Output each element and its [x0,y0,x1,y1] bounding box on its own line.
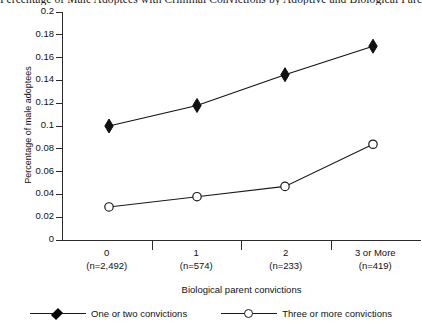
legend-item-three-or-more: Three or more convictions [221,308,392,320]
x-axis-category: 0(n=2,492) [86,246,127,272]
x-axis-category-label: 0 [86,246,127,259]
x-axis-title: Biological parent convictions [62,284,421,295]
y-axis-tick-label: 0.14 [36,73,55,84]
x-axis-category-count: (n=419) [355,259,396,272]
legend-label: Three or more convictions [282,308,392,319]
data-point-diamond [369,39,377,53]
series-line [109,46,373,126]
x-axis-category-count: (n=574) [180,259,213,272]
x-axis-category: 1(n=574) [180,246,213,272]
y-axis-tick-label: 0.2 [41,5,54,16]
legend-item-one-or-two: One or two convictions [30,308,187,320]
x-axis-separator [152,241,153,250]
data-point-diamond [193,98,201,112]
legend-label: One or two convictions [91,308,187,319]
filled-diamond-marker-icon [30,308,86,320]
open-circle-marker-icon [221,308,277,320]
x-axis-category: 2(n=233) [269,246,302,272]
y-axis-tick-label: 0.06 [36,165,55,176]
data-point-circle [193,192,201,200]
data-point-diamond [281,68,289,82]
series-layer [62,12,420,240]
y-axis-tick-label: 0.04 [36,187,55,198]
y-axis-tick-label: 0.08 [36,142,55,153]
data-point-diamond [105,119,113,133]
data-point-circle [105,203,113,211]
x-axis-separator [241,241,242,250]
chart-legend: One or two convictions Three or more con… [0,304,422,323]
series-line [109,144,373,207]
x-axis-category-label: 2 [269,246,302,259]
y-axis-title: Percentage of male adoptees [23,35,33,215]
series-1 [105,39,377,133]
plot-area: 00.020.040.060.080.10.120.140.160.180.2 [62,12,420,240]
y-axis-tick-label: 0.18 [36,28,55,39]
x-axis-separator [331,241,332,250]
y-axis-tick-label: 0.12 [36,96,55,107]
data-point-circle [369,140,377,148]
x-axis-category-count: (n=233) [269,259,302,272]
series-2 [105,140,377,211]
x-axis-category-label: 3 or More [355,246,396,259]
line-chart: Percentage of Male Adoptees with Crimina… [0,0,422,323]
x-axis-category: 3 or More(n=419) [355,246,396,272]
data-point-circle [281,182,289,190]
y-axis-tick-label: 0 [49,233,54,244]
y-axis-tick-label: 0.1 [41,119,54,130]
y-axis-tick-label: 0.02 [36,210,55,221]
chart-title: Percentage of Male Adoptees with Crimina… [0,0,422,5]
x-axis-category-count: (n=2,492) [86,259,127,272]
x-axis-category-label: 1 [180,246,213,259]
y-axis-tick-label: 0.16 [36,51,55,62]
